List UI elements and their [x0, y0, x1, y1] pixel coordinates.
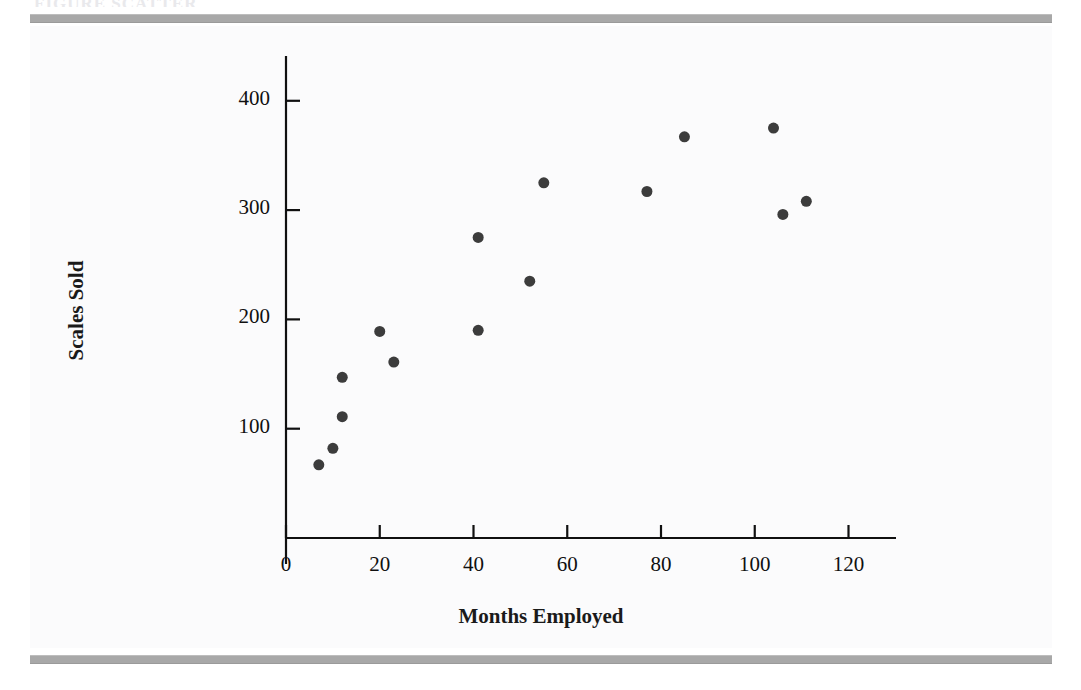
y-tick-label: 400: [200, 86, 270, 111]
clipped-header-text: FIGURE SCATTER: [34, 0, 454, 7]
data-point: [473, 325, 484, 336]
data-point: [538, 177, 549, 188]
y-tick-label: 200: [200, 304, 270, 329]
data-point: [337, 372, 348, 383]
y-axis-title: Scales Sold: [64, 201, 89, 421]
bottom-rule-divider: [30, 655, 1052, 664]
chart-figure: 020406080100120 100200300400 Months Empl…: [30, 26, 1052, 648]
y-tick-label: 100: [200, 414, 270, 439]
x-tick-label: 60: [537, 552, 597, 577]
x-tick-label: 120: [819, 552, 879, 577]
data-point: [337, 411, 348, 422]
y-tick-label: 300: [200, 195, 270, 220]
data-point: [679, 131, 690, 142]
data-point: [641, 186, 652, 197]
x-axis-title: Months Employed: [30, 604, 1052, 629]
data-point: [374, 326, 385, 337]
x-tick-label: 40: [444, 552, 504, 577]
top-rule-divider: [30, 14, 1052, 23]
data-point: [473, 232, 484, 243]
data-point: [801, 196, 812, 207]
x-tick-label: 100: [725, 552, 785, 577]
x-tick-label: 0: [256, 552, 316, 577]
x-tick-label: 80: [631, 552, 691, 577]
data-point: [524, 276, 535, 287]
data-point: [777, 209, 788, 220]
figure-page: FIGURE SCATTER 020406080100120 100200300…: [0, 0, 1081, 690]
data-point: [768, 123, 779, 134]
data-point: [327, 443, 338, 454]
data-point: [388, 357, 399, 368]
data-point: [313, 459, 324, 470]
x-tick-label: 20: [350, 552, 410, 577]
